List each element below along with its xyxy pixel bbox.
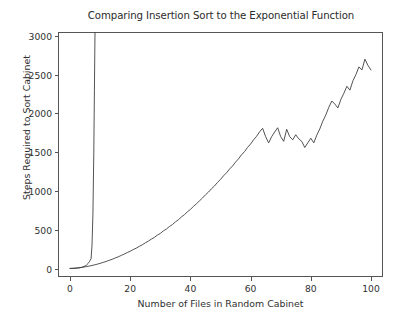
chart-figure: Comparing Insertion Sort to the Exponent…	[0, 0, 402, 322]
x-axis-label: Number of Files in Random Cabinet	[58, 298, 383, 309]
y-axis-label: Steps Required to Sort Cabinet	[21, 5, 32, 250]
y-tick-mark	[55, 75, 59, 76]
series-line-insertion-sort-steps	[70, 59, 371, 268]
x-tick-label: 60	[231, 283, 271, 294]
y-tick-mark	[55, 113, 59, 114]
y-tick-mark	[55, 269, 59, 270]
y-tick-mark	[55, 36, 59, 37]
y-tick-mark	[55, 152, 59, 153]
x-tick-label: 100	[351, 283, 391, 294]
x-tick-label: 80	[291, 283, 331, 294]
plot-lines	[58, 32, 383, 277]
x-tick-mark	[70, 277, 71, 281]
y-tick-mark	[55, 191, 59, 192]
x-tick-label: 40	[170, 283, 210, 294]
plot-area: 050010001500200025003000020406080100	[58, 32, 383, 277]
chart-title: Comparing Insertion Sort to the Exponent…	[58, 10, 384, 21]
x-tick-label: 0	[50, 283, 90, 294]
y-tick-label: 0	[8, 263, 52, 274]
x-tick-mark	[371, 277, 372, 281]
series-line-exponential-function	[70, 32, 95, 268]
x-tick-mark	[190, 277, 191, 281]
y-tick-mark	[55, 230, 59, 231]
x-tick-mark	[251, 277, 252, 281]
x-tick-mark	[311, 277, 312, 281]
x-tick-label: 20	[110, 283, 150, 294]
x-tick-mark	[130, 277, 131, 281]
